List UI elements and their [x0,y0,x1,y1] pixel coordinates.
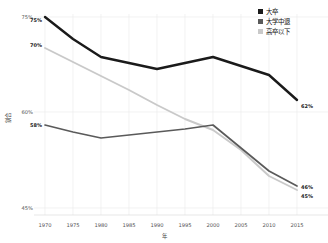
x-tick-label-1990: 1990 [150,222,163,228]
legend-label-kousotsu-ika[interactable]: 高卒以下 [266,27,291,36]
x-axis-title: 年 [162,232,168,240]
y-tick-label-45: 45% [21,205,33,211]
series-line-daigaku-chutai [45,125,297,186]
chart-canvas: 75% 60% 45% 1970 1975 1980 1985 1990 199… [0,0,328,243]
x-tick-label-2005: 2005 [234,222,247,228]
data-label-kousotsu-start: 70% [30,42,42,48]
legend-label-daigaku-chutai[interactable]: 大学中退 [266,17,291,26]
legend-marker-daigaku-chutai-icon [258,19,263,24]
legend-marker-daisotsu-icon [258,9,263,14]
x-tick-label-2010: 2010 [262,222,275,228]
data-label-chutai-start: 58% [30,122,42,128]
x-tick-label-1985: 1985 [122,222,135,228]
x-tick-label-1970: 1970 [38,222,51,228]
legend-label-daisotsu[interactable]: 大卒 [266,7,279,16]
x-tick-label-2000: 2000 [206,222,219,228]
x-tick-label-1980: 1980 [94,222,107,228]
line-chart: 75% 60% 45% 1970 1975 1980 1985 1990 199… [0,0,328,243]
x-tick-label-1995: 1995 [178,222,191,228]
y-axis-title: 割合 [4,112,12,123]
data-label-kousotsu-end: 45% [301,193,313,199]
series-line-kousotsu-ika [45,48,297,190]
data-label-daisotsu-end: 62% [301,103,313,109]
data-label-chutai-end: 46% [301,184,313,190]
x-tick-label-2015: 2015 [290,222,303,228]
legend-marker-kousotsu-ika-icon [258,29,263,34]
data-label-daisotsu-start: 75% [30,17,42,23]
chart-legend: 大卒 大学中退 高卒以下 [258,7,291,36]
y-tick-label-60: 60% [21,109,33,115]
x-tick-label-1975: 1975 [66,222,79,228]
